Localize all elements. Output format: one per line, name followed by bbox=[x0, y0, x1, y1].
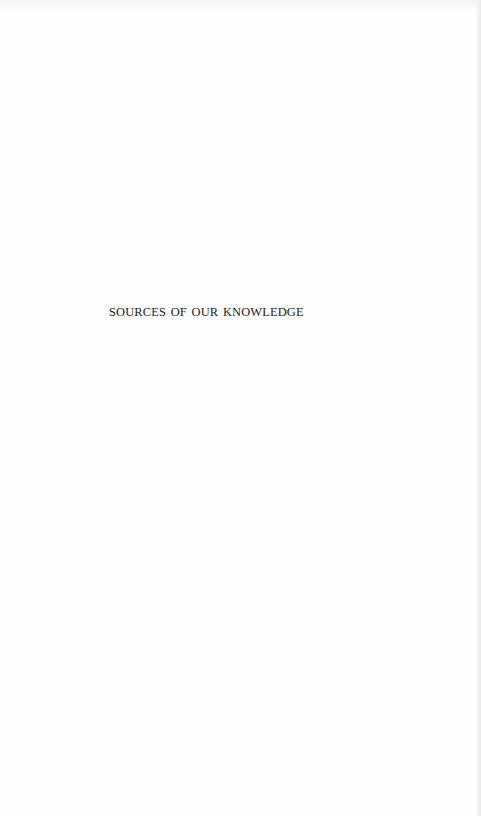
book-page: SOURCES OF OUR KNOWLEDGE bbox=[0, 0, 481, 816]
half-title: SOURCES OF OUR KNOWLEDGE bbox=[109, 303, 304, 321]
scan-edge-top bbox=[0, 0, 481, 14]
scan-edge-right bbox=[475, 0, 481, 816]
